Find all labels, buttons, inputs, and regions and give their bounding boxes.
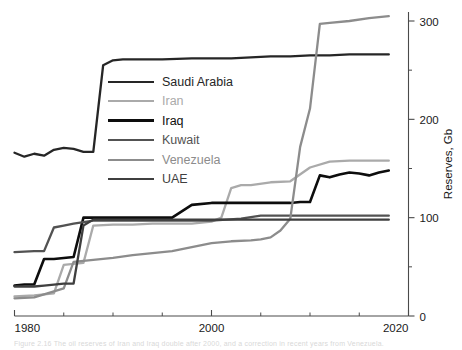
y-tick-label: 100: [420, 212, 439, 224]
x-tick-label: 2020: [383, 322, 409, 334]
legend-label: Saudi Arabia: [162, 76, 233, 89]
series-line-kuwait: [15, 216, 389, 252]
chart-legend: Saudi ArabiaIranIraqKuwaitVenezuelaUAE: [108, 72, 233, 189]
tick-label-layer: 1980200020200100200300Reserves, Gb: [15, 16, 455, 335]
figure-container: 1980200020200100200300Reserves, Gb Saudi…: [0, 0, 462, 350]
legend-label: Venezuela: [162, 154, 220, 167]
legend-swatch-saudi-arabia: [108, 81, 154, 83]
legend-label: Iraq: [162, 115, 184, 128]
figure-caption: Figure 2.16 The oil reserves of Iran and…: [14, 340, 454, 350]
legend-label: UAE: [162, 173, 188, 186]
legend-item-iraq[interactable]: Iraq: [108, 111, 233, 131]
x-tick-label: 2000: [199, 322, 225, 334]
legend-label: Iran: [162, 95, 184, 108]
y-axis-title: Reserves, Gb: [442, 129, 454, 199]
x-tick-label: 1980: [15, 322, 41, 334]
legend-item-iran[interactable]: Iran: [108, 92, 233, 112]
series-line-uae: [15, 220, 389, 287]
legend-swatch-iran: [108, 100, 154, 102]
legend-item-saudi-arabia[interactable]: Saudi Arabia: [108, 72, 233, 92]
y-tick-label: 0: [420, 311, 426, 323]
y-tick-label: 300: [420, 16, 439, 28]
legend-swatch-venezuela: [108, 159, 154, 161]
legend-swatch-uae: [108, 178, 154, 180]
legend-swatch-iraq: [108, 119, 154, 122]
legend-label: Kuwait: [162, 134, 200, 147]
legend-item-venezuela[interactable]: Venezuela: [108, 150, 233, 170]
legend-item-uae[interactable]: UAE: [108, 170, 233, 190]
legend-item-kuwait[interactable]: Kuwait: [108, 131, 233, 151]
y-tick-label: 200: [420, 114, 439, 126]
legend-swatch-kuwait: [108, 139, 154, 141]
